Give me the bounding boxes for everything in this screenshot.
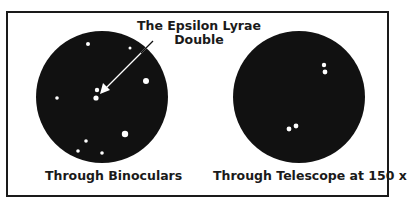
star-icon (95, 88, 99, 92)
binoculars-caption: Through Binoculars (45, 168, 182, 183)
star-icon (100, 151, 104, 155)
callout-line-2: Double (137, 33, 261, 47)
star-icon (294, 124, 299, 129)
star-icon (122, 131, 128, 137)
star-icon (322, 63, 326, 67)
callout-line-1: The Epsilon Lyrae (137, 19, 261, 33)
star-icon (93, 95, 98, 100)
field-circle (233, 31, 365, 163)
telescope-caption: Through Telescope at 150 x (213, 168, 407, 183)
star-icon (323, 70, 328, 75)
star-icon (287, 127, 292, 132)
star-icon (143, 78, 149, 84)
telescope-view (233, 31, 365, 163)
star-icon (86, 42, 90, 46)
star-icon (129, 47, 132, 50)
star-icon (84, 139, 88, 143)
star-icon (55, 96, 59, 100)
star-icon (76, 149, 80, 153)
binoculars-view (36, 31, 168, 163)
epsilon-lyrae-callout: The Epsilon Lyrae Double (137, 19, 261, 47)
